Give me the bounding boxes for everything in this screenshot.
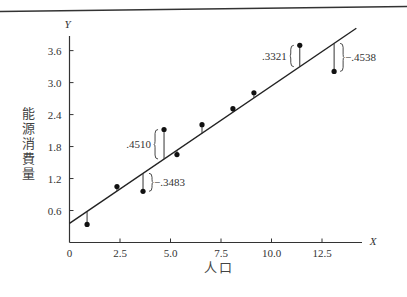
x-tick-label: 12.5 <box>312 247 332 259</box>
x-tick-label: 10.0 <box>262 247 282 259</box>
data-point <box>140 189 145 194</box>
x-tick-label: 0 <box>67 247 73 259</box>
data-point <box>84 222 89 227</box>
y-tick-label: 3.6 <box>48 45 62 57</box>
scatter-chart: 02.55.07.510.012.50.61.21.82.43.03.6YX .… <box>0 0 407 297</box>
data-point <box>161 127 166 132</box>
x-tick-label: 2.5 <box>113 247 127 259</box>
data-point <box>251 90 256 95</box>
data-point <box>332 69 337 74</box>
axes: 02.55.07.510.012.50.61.21.82.43.03.6YX <box>48 18 378 259</box>
x-axis-title: 人口 <box>204 260 234 275</box>
residual-value-label: −.4538 <box>345 51 376 63</box>
y-tick-label: 0.6 <box>48 205 62 217</box>
x-tick-label: 7.5 <box>214 247 228 259</box>
y-tick-label: 2.4 <box>48 109 62 121</box>
data-point <box>199 122 204 127</box>
brace <box>340 43 344 71</box>
y-axis-title: 能源消費量 <box>20 106 36 181</box>
top-border-rule <box>0 7 407 12</box>
data-point <box>174 152 179 157</box>
x-tick-label: 5.0 <box>164 247 178 259</box>
residual-value-label: .4510 <box>126 138 151 150</box>
y-tick-label: 1.8 <box>48 141 62 153</box>
data-point <box>230 106 235 111</box>
data-point <box>297 43 302 48</box>
brace <box>154 130 158 160</box>
data-points <box>84 43 336 227</box>
y-tick-label: 3.0 <box>48 77 62 89</box>
y-axis-variable: Y <box>64 18 72 30</box>
brace <box>290 45 294 66</box>
regression-line <box>70 28 357 223</box>
residual-value-label: .3321 <box>262 50 287 62</box>
brace <box>149 173 153 191</box>
y-tick-label: 1.2 <box>48 173 62 185</box>
residual-lines <box>87 43 334 224</box>
data-point <box>114 184 119 189</box>
residual-annotations: .4510−.3483.3321−.4538 <box>126 43 376 191</box>
x-axis-variable: X <box>369 235 378 247</box>
residual-value-label: −.3483 <box>154 176 185 188</box>
